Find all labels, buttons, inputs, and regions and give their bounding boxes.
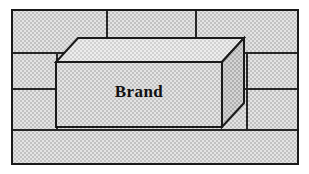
figure-canvas: Brand — [0, 0, 309, 174]
brand-box[interactable]: Brand — [56, 38, 244, 127]
brand-box-illustration: Brand — [0, 0, 309, 174]
brand-label: Brand — [115, 82, 163, 101]
box-top-face — [56, 38, 244, 62]
